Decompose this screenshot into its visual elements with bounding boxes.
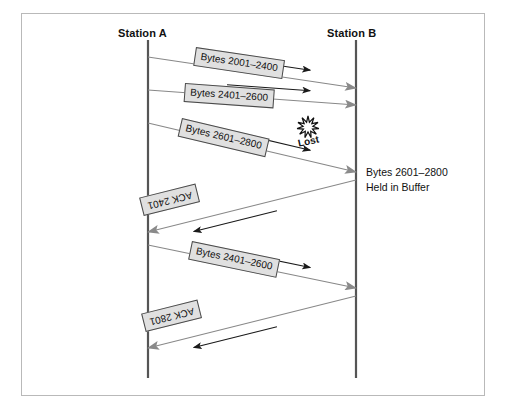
msg-ack-2401-head-arrow: [194, 211, 277, 232]
station-a-label: Station A: [118, 27, 167, 39]
sequence-diagram-figure: Station A Station B Bytes 2601–2800 Held…: [0, 0, 506, 413]
buffer-note-line-1: Bytes 2601–2800: [366, 165, 448, 180]
msg-ack-2801-head-arrow: [194, 327, 277, 348]
buffer-note-line-2: Held in Buffer: [366, 180, 448, 195]
buffer-note: Bytes 2601–2800 Held in Buffer: [366, 165, 448, 195]
station-b-label: Station B: [327, 27, 376, 39]
